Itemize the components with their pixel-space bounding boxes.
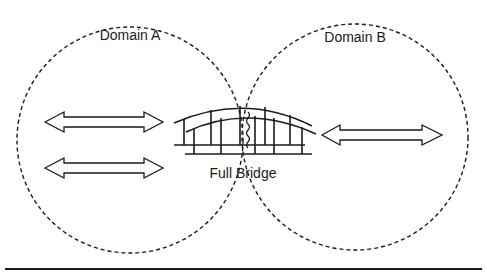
domain-a-label: Domain A	[100, 27, 161, 43]
domain-a-circle	[17, 27, 243, 253]
domain-a-arrow-bottom	[45, 158, 163, 178]
domain-a-arrow-top	[45, 112, 163, 132]
domain-b-arrow	[322, 125, 442, 145]
bridge-label: Full Bridge	[210, 165, 277, 181]
bridge-diagram: Domain A Domain B Full Bridge	[0, 0, 487, 274]
domain-b-label: Domain B	[324, 29, 385, 45]
